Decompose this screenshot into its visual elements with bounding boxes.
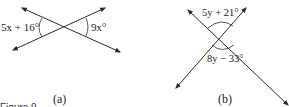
panel-a: 5x + 16° 9x° (a) xyxy=(1,8,120,106)
panel-b-caption: (b) xyxy=(218,92,232,106)
angle-arc-right xyxy=(86,18,88,36)
angle-arc-bottom xyxy=(212,45,234,50)
angle-label-top: 5y + 21° xyxy=(202,7,238,18)
angle-label-bottom: 8y − 33° xyxy=(207,53,243,64)
angle-label-right: 9x° xyxy=(91,21,106,33)
line-b2 xyxy=(176,8,246,88)
panel-a-caption: (a) xyxy=(53,92,66,106)
panel-b: 5y + 21° 8y − 33° (b) xyxy=(176,7,288,106)
vertical-angles-figure: 5x + 16° 9x° (a) 5y + 21° 8y − 33° (b) F… xyxy=(0,0,289,107)
figure-caption: Figure 9 xyxy=(0,102,37,107)
angle-label-left: 5x + 16° xyxy=(1,21,39,33)
angle-arc-left xyxy=(39,18,42,37)
